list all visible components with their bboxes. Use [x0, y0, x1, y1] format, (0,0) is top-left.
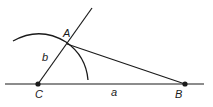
label-a-point: A [62, 27, 70, 39]
ray-from-c [38, 8, 92, 84]
label-side-b: b [42, 51, 48, 63]
construction-arc [13, 34, 88, 80]
diagram-canvas: A b C a B [0, 0, 213, 107]
label-side-a: a [111, 86, 117, 98]
label-b-point: B [175, 88, 182, 100]
point-b-dot [182, 81, 187, 86]
label-c-point: C [35, 88, 43, 100]
point-c-dot [35, 81, 40, 86]
